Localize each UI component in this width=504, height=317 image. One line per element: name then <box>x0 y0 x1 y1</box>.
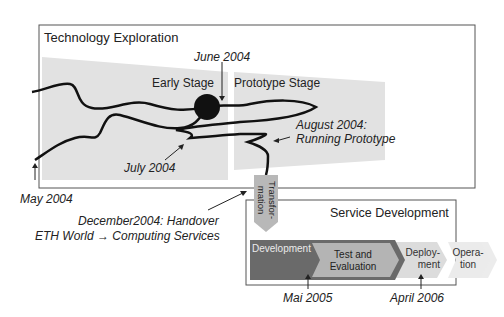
test-evaluation-label: Test and Evaluation <box>318 249 388 273</box>
development-label: Development <box>252 243 312 255</box>
transformation-label: Transfor- mation <box>254 176 278 224</box>
august-label-line1: August 2004: <box>296 118 367 132</box>
operation-label-line2: tion <box>452 259 484 271</box>
transformation-line1: Transfor- <box>267 176 278 224</box>
august-label-line2: Running Prototype <box>296 132 395 146</box>
deployment-label-line2: ment <box>396 259 440 271</box>
operation-label: Opera- tion <box>452 247 484 271</box>
transformation-line2: mation <box>256 176 267 224</box>
december-label-line2: ETH World → Computing Services <box>35 229 220 243</box>
april2006-label: April 2006 <box>390 291 444 305</box>
december-label-line1: December2004: Handover <box>78 214 219 228</box>
operation-label-line1: Opera- <box>452 247 484 259</box>
june-label: June 2004 <box>194 50 250 64</box>
deployment-label: Deploy- ment <box>396 247 440 271</box>
december-arrow <box>208 192 245 210</box>
test-label-line1: Test and <box>318 249 388 261</box>
prototype-stage-label: Prototype Stage <box>234 76 320 90</box>
test-label-line2: Evaluation <box>318 261 388 273</box>
deployment-label-line1: Deploy- <box>396 247 440 259</box>
july-label: July 2004 <box>124 161 175 175</box>
early-stage-label: Early Stage <box>152 76 214 90</box>
tech-exploration-title: Technology Exploration <box>44 30 178 45</box>
milestone-dot <box>194 94 220 120</box>
mai2005-label: Mai 2005 <box>283 291 332 305</box>
service-development-title: Service Development <box>330 206 449 220</box>
may-label: May 2004 <box>20 192 73 206</box>
